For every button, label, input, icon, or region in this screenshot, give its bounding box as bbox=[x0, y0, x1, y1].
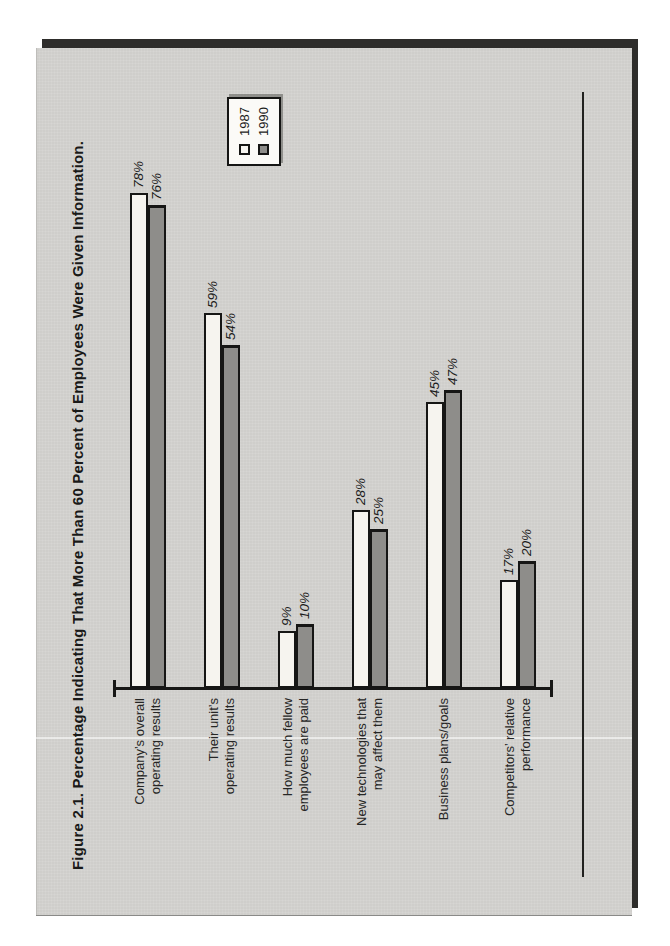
value-label-1987: 28% bbox=[352, 478, 370, 505]
figure-title: Figure 2.1. Percentage Indicating That M… bbox=[69, 141, 86, 870]
bar-1987 bbox=[130, 193, 148, 688]
bar-1990 bbox=[296, 624, 314, 688]
category-label-line: performance bbox=[518, 698, 534, 888]
value-label-1990: 25% bbox=[370, 497, 388, 524]
legend-label-1990: 1990 bbox=[257, 107, 270, 136]
category-label-line: operating results bbox=[222, 698, 238, 888]
category-label-line: may affect them bbox=[370, 698, 386, 888]
bar-1990 bbox=[370, 529, 388, 688]
rotated-figure: Figure 2.1. Percentage Indicating That M… bbox=[36, 48, 632, 916]
category-label: Competitors’ relativeperformance bbox=[502, 698, 534, 888]
legend-swatch-1987 bbox=[239, 144, 250, 155]
bar-1987 bbox=[500, 580, 518, 688]
category-label-line: How much fellow bbox=[280, 698, 296, 888]
category-label-line: employees are paid bbox=[296, 698, 312, 888]
scanned-book-page: Figure 2.1. Percentage Indicating That M… bbox=[0, 0, 670, 946]
category-label: Business plans/goals bbox=[436, 698, 452, 888]
bar-1987 bbox=[352, 510, 370, 688]
axis-end-tick bbox=[113, 680, 116, 697]
category-label-line: operating results bbox=[148, 698, 164, 888]
value-label-1987: 59% bbox=[204, 281, 222, 308]
category-label-line: Their unit’s bbox=[206, 698, 222, 888]
category-label: New technologies thatmay affect them bbox=[354, 698, 386, 888]
bar-1987 bbox=[204, 313, 222, 688]
bar-1987 bbox=[426, 402, 444, 688]
value-label-1990: 47% bbox=[444, 358, 462, 385]
category-axis-baseline bbox=[114, 687, 552, 690]
value-label-1990: 76% bbox=[148, 173, 166, 200]
bar-1990 bbox=[222, 345, 240, 688]
value-label-1990: 54% bbox=[222, 313, 240, 340]
value-label-1987: 17% bbox=[500, 548, 518, 575]
legend-item-1987: 1987 bbox=[238, 99, 251, 155]
category-label-line: Competitors’ relative bbox=[502, 698, 518, 888]
category-label-line: New technologies that bbox=[354, 698, 370, 888]
figure-page: Figure 2.1. Percentage Indicating That M… bbox=[36, 48, 632, 916]
legend: 1987 1990 bbox=[227, 97, 281, 166]
value-label-1987: 45% bbox=[426, 370, 444, 397]
value-label-1987: 78% bbox=[130, 161, 148, 188]
category-label: Their unit’soperating results bbox=[206, 698, 238, 888]
category-label-line: Company’s overall bbox=[132, 698, 148, 888]
axis-end-tick bbox=[550, 680, 553, 697]
legend-label-1987: 1987 bbox=[238, 107, 251, 136]
bar-1987 bbox=[278, 631, 296, 688]
bar-1990 bbox=[518, 561, 536, 688]
category-label-line: Business plans/goals bbox=[436, 698, 452, 888]
category-label: Company’s overalloperating results bbox=[132, 698, 164, 888]
value-label-1990: 10% bbox=[296, 592, 314, 619]
legend-swatch-1990 bbox=[258, 144, 269, 155]
figure-bottom-rule bbox=[582, 92, 584, 877]
bar-1990 bbox=[148, 205, 166, 688]
legend-item-1990: 1990 bbox=[257, 99, 270, 155]
bar-1990 bbox=[444, 390, 462, 688]
value-label-1990: 20% bbox=[518, 529, 536, 556]
category-label: How much fellowemployees are paid bbox=[280, 698, 312, 888]
value-label-1987: 9% bbox=[278, 606, 296, 626]
